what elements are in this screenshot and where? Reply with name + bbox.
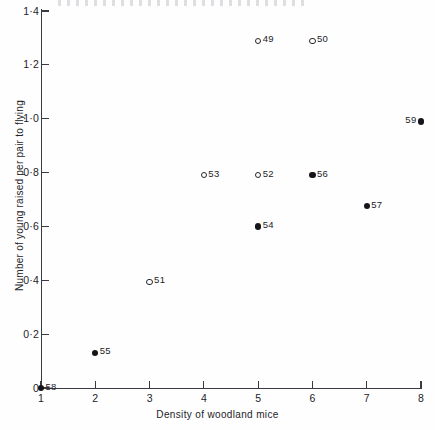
x-axis-tick [420, 381, 421, 388]
y-axis-tick [42, 334, 49, 335]
x-axis-tick-label: 4 [194, 392, 214, 404]
data-point-label: 54 [263, 219, 274, 230]
x-axis-line [41, 388, 422, 389]
open-circle-marker [309, 38, 315, 44]
x-axis-tick [312, 381, 313, 388]
x-axis-tick-label: 7 [357, 392, 377, 404]
filled-circle-marker [92, 350, 98, 356]
data-point-label: 49 [263, 33, 274, 44]
x-axis-tick [258, 381, 259, 388]
x-axis-tick-label: 1 [31, 392, 51, 404]
x-axis-tick [366, 381, 367, 388]
data-point-label: 51 [154, 274, 165, 285]
x-axis-tick-label: 6 [302, 392, 322, 404]
y-axis-tick-label: 1·4 [9, 5, 39, 17]
data-point-label: 59 [405, 114, 416, 125]
data-point-label: 52 [263, 168, 274, 179]
x-axis-tick [95, 381, 96, 388]
filled-circle-marker [418, 118, 424, 124]
y-axis-tick [42, 118, 49, 119]
open-circle-marker [146, 279, 152, 285]
data-point-label: 57 [371, 199, 382, 210]
plot-area: 00·20·40·60·81·01·21·4 12345678 49505953… [0, 0, 435, 430]
x-axis-tick-label: 8 [411, 392, 431, 404]
y-axis-line [41, 9, 42, 389]
y-axis-tick [42, 64, 49, 65]
filled-circle-marker [309, 172, 315, 178]
open-circle-marker [255, 172, 261, 178]
data-point-label: 56 [317, 168, 328, 179]
filled-circle-marker [364, 203, 370, 209]
y-axis-tick [42, 172, 49, 173]
data-point-label: 58 [46, 381, 57, 392]
x-axis-tick [203, 381, 204, 388]
x-axis-tick-label: 3 [140, 392, 160, 404]
x-axis-title: Density of woodland mice [0, 409, 435, 420]
data-point-label: 50 [317, 33, 328, 44]
filled-circle-marker [38, 385, 44, 391]
y-axis-tick [42, 280, 49, 281]
data-point-label: 53 [208, 168, 219, 179]
x-axis-tick [149, 381, 150, 388]
data-point-label: 55 [100, 345, 111, 356]
y-axis-tick [42, 10, 49, 11]
x-axis-tick-label: 5 [248, 392, 268, 404]
y-axis-tick-label: 1·2 [9, 58, 39, 70]
x-axis-tick-label: 2 [85, 392, 105, 404]
open-circle-marker [201, 172, 207, 178]
scatter-plot-figure: 00·20·40·60·81·01·21·4 12345678 49505953… [0, 0, 435, 430]
y-axis-title: Number of young raised per pair to flyin… [14, 81, 25, 311]
y-axis-tick [42, 226, 49, 227]
open-circle-marker [255, 38, 261, 44]
filled-circle-marker [255, 223, 261, 229]
y-axis-tick-label: 0·2 [9, 328, 39, 340]
